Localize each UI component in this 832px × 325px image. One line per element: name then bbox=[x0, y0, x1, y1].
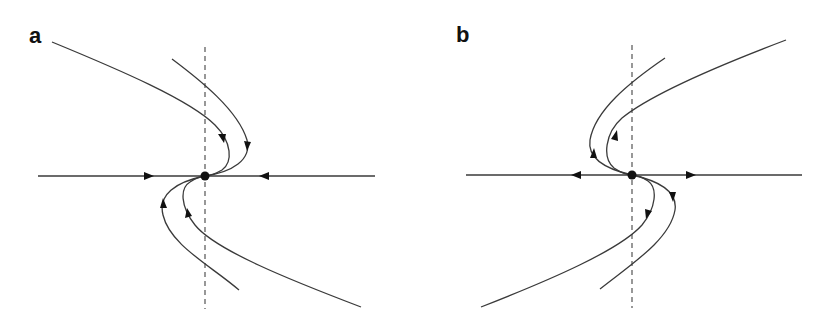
panel-a-trajectory-lower-outer bbox=[183, 176, 361, 307]
panel-a: a bbox=[29, 23, 375, 309]
panel-a-trajectory-lower-inner bbox=[162, 176, 239, 290]
panel-a-arrow-left-icon bbox=[259, 172, 269, 180]
panel-a-trajectory-upper-inner bbox=[172, 59, 248, 176]
panel-b: b bbox=[456, 22, 802, 308]
panel-b-arrow-up-icon bbox=[611, 130, 618, 141]
panel-b-trajectory-upper-inner bbox=[590, 58, 665, 175]
panel-a-arrow-right-icon bbox=[144, 172, 154, 180]
panel-a-arrow-down-icon bbox=[244, 141, 251, 151]
panel-b-trajectory-upper-outer bbox=[607, 40, 786, 175]
panel-a-trajectory-upper-outer bbox=[52, 42, 229, 176]
panel-b-trajectory-lower-outer bbox=[481, 175, 654, 307]
panel-b-trajectory-lower-inner bbox=[600, 175, 675, 289]
panel-a-arrow-down-icon bbox=[218, 134, 226, 143]
panel-a-fixed-point bbox=[201, 172, 210, 181]
panel-a-label: a bbox=[29, 23, 42, 48]
panel-b-fixed-point bbox=[628, 171, 637, 180]
panel-b-arrow-left-icon bbox=[571, 171, 581, 179]
panel-a-arrow-up-icon bbox=[160, 198, 167, 208]
panel-b-arrow-right-icon bbox=[686, 171, 696, 179]
phase-portrait-figure: a b bbox=[0, 0, 832, 325]
panel-b-label: b bbox=[456, 22, 469, 47]
